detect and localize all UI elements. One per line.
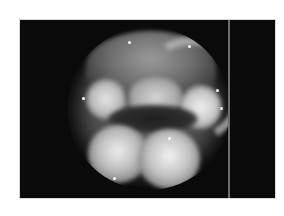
endoscopic-view: [68, 27, 230, 190]
specular-highlight: [113, 177, 116, 180]
specular-highlight: [168, 137, 171, 140]
photo-frame: [20, 20, 275, 198]
vertical-divider-line: [228, 20, 230, 198]
specular-highlight: [220, 107, 223, 110]
specular-highlight: [188, 45, 191, 48]
specular-highlight: [128, 41, 131, 44]
specular-highlight: [216, 89, 219, 92]
specular-highlight: [82, 97, 85, 100]
